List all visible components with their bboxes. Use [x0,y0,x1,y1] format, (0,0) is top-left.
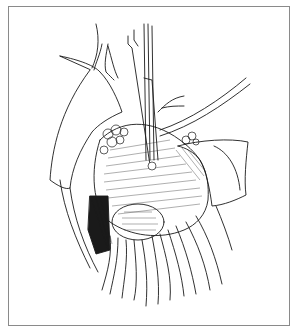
forceps-right-blade [144,24,146,160]
surgical-illustration [0,0,297,334]
organ-tissue [94,124,208,235]
forceps-left-blade [128,36,150,165]
left-tissue-flap [50,56,122,189]
catheter-tube [160,78,246,130]
right-tissue-flap [178,140,248,206]
